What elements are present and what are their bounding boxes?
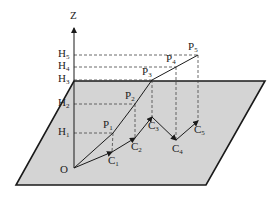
point-label-p5: P5 — [188, 41, 198, 54]
height-label-h4: H4 — [58, 60, 69, 73]
point-label-p2: P2 — [125, 90, 135, 103]
height-label-h3: H3 — [58, 73, 69, 86]
point-label-c3: C3 — [148, 120, 159, 133]
point-label-p3: P3 — [142, 66, 152, 79]
point-label-c4: C4 — [172, 143, 183, 156]
point-label-p1: P1 — [103, 119, 113, 132]
point-label-p4: P4 — [166, 53, 176, 66]
z-axis-label: Z — [70, 10, 77, 21]
point-label-c5: C5 — [194, 124, 205, 137]
height-label-h1: H1 — [58, 126, 69, 139]
height-label-h2: H2 — [58, 97, 69, 110]
point-label-c2: C2 — [131, 141, 142, 154]
diagram-canvas — [0, 0, 276, 197]
point-label-c1: C1 — [108, 155, 119, 168]
origin-label: O — [60, 164, 68, 175]
height-label-h5: H5 — [58, 48, 69, 61]
